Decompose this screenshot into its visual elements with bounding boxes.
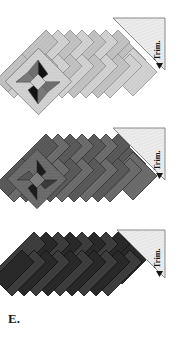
- trim-label-b: Trim.: [153, 150, 162, 170]
- trim-label-a: Trim.: [153, 40, 162, 60]
- figure-canvas: Trim.: [0, 0, 175, 337]
- trim-label-c: Trim.: [153, 248, 162, 268]
- quilt-strip-figure: Trim.: [0, 0, 175, 337]
- figure-caption: E.: [8, 312, 20, 325]
